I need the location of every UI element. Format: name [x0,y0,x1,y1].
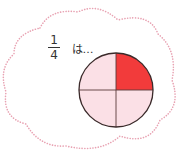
fraction-circle [79,53,153,127]
fraction-one-quarter: 1 4 [48,34,60,61]
fraction-numerator: 1 [48,34,60,46]
fraction-denominator: 4 [48,49,60,61]
thought-cloud-diagram [0,0,180,154]
prompt-suffix: は… [72,40,93,56]
